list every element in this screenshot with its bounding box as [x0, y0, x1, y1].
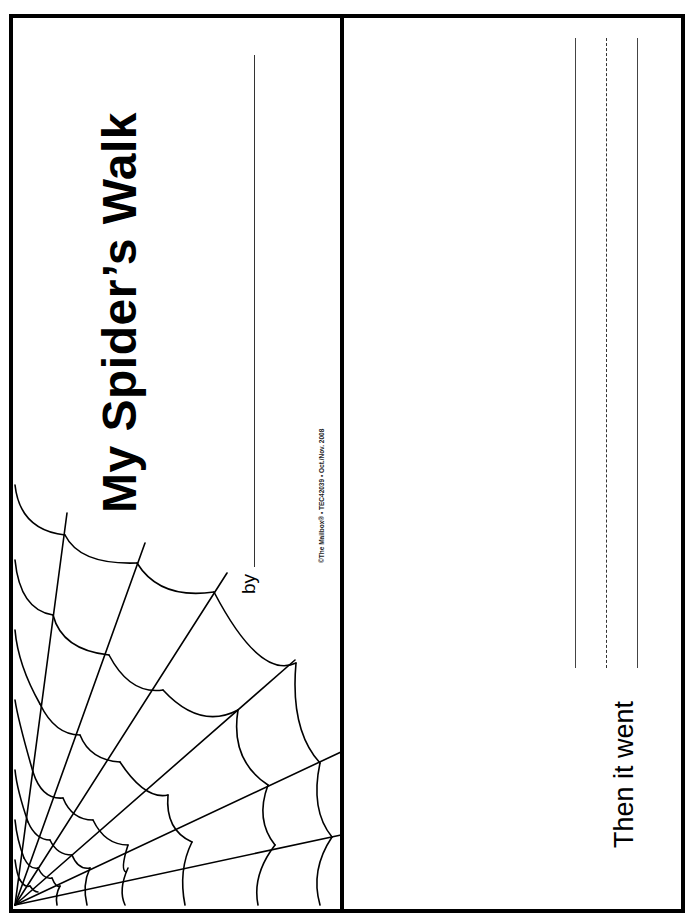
sentence-prompt: Then it went: [609, 701, 639, 848]
writing-line-top[interactable]: [575, 38, 576, 668]
web-radials: [15, 513, 341, 905]
spider-web-illustration: [0, 0, 342, 913]
byline-label: by: [238, 574, 260, 594]
writing-line-midline-dashed[interactable]: [606, 38, 607, 668]
copyright-notice: ©The Mailbox® • TEC42039 • Oct./Nov. 200…: [317, 429, 326, 563]
writing-line-base[interactable]: [637, 38, 638, 668]
booklet-title: My Spider’s Walk: [96, 112, 144, 513]
author-name-line[interactable]: [254, 55, 255, 567]
